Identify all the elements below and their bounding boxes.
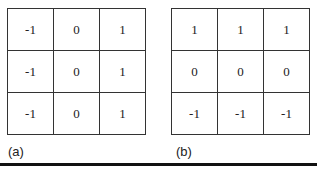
cell: -1 [172,93,218,135]
figure-label-a: (a) [8,144,24,159]
cell: 1 [264,9,310,51]
cell: 1 [218,9,264,51]
cell: 0 [54,51,100,93]
cell: -1 [8,51,54,93]
cell: 0 [54,9,100,51]
cell: -1 [8,9,54,51]
figure-label-b: (b) [176,144,192,159]
cell: 0 [218,51,264,93]
cell: -1 [264,93,310,135]
divider-rule [0,163,317,166]
cell: 1 [100,9,146,51]
cell: 1 [100,51,146,93]
cell: 0 [264,51,310,93]
kernel-grid-a: -1 0 1 -1 0 1 -1 0 1 [7,8,146,135]
kernel-grid-b: 1 1 1 0 0 0 -1 -1 -1 [171,8,310,135]
cell: 1 [100,93,146,135]
cell: 0 [172,51,218,93]
cell: 0 [54,93,100,135]
cell: -1 [8,93,54,135]
cell: -1 [218,93,264,135]
cell: 1 [172,9,218,51]
